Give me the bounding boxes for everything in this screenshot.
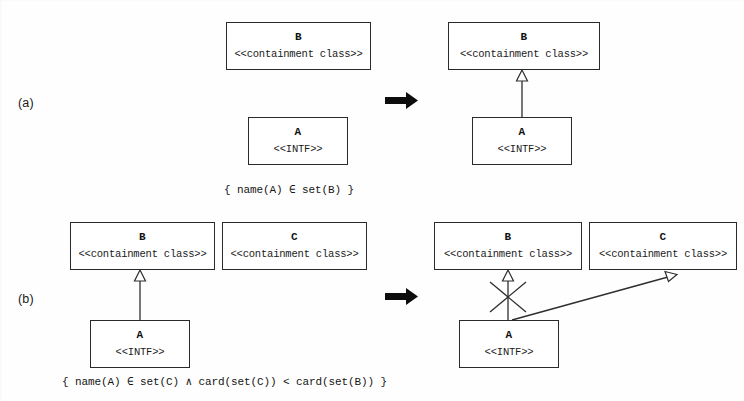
transform-arrow-a — [385, 92, 418, 109]
panel-label-a: (a) — [18, 96, 34, 110]
generalization-a-to-b-panel-b-after-crossed — [490, 270, 526, 320]
class-name: B — [139, 232, 146, 244]
class-name: B — [521, 32, 528, 44]
class-name: A — [295, 127, 302, 139]
class-name: C — [660, 232, 667, 244]
class-box-b-a-before: B <<containment class>> — [226, 22, 371, 70]
class-name: A — [519, 127, 526, 139]
class-stereotype: <<containment class>> — [599, 249, 727, 260]
constraint-text-b: { name(A) ∈ set(C) ∧ card(set(C)) < card… — [62, 375, 387, 388]
class-stereotype: <<containment class>> — [444, 249, 572, 260]
class-stereotype: <<containment class>> — [234, 49, 362, 60]
class-box-a-a-after: A <<INTF>> — [472, 117, 572, 165]
class-name: C — [291, 232, 298, 244]
class-box-b-b-before: B <<containment class>> — [70, 222, 215, 270]
class-stereotype: <<containment class>> — [460, 49, 588, 60]
generalization-a-to-c-panel-b-after — [512, 272, 677, 321]
class-stereotype: <<INTF>> — [485, 347, 534, 358]
class-name: B — [505, 232, 512, 244]
generalization-a-to-b-panel-a — [517, 70, 528, 117]
class-box-c-b-after: C <<containment class>> — [589, 222, 737, 270]
panel-label-b: (b) — [18, 292, 34, 306]
class-box-b-b-after: B <<containment class>> — [434, 222, 582, 270]
class-stereotype: <<INTF>> — [116, 347, 165, 358]
class-box-a-b-after: A <<INTF>> — [459, 320, 559, 368]
class-stereotype: <<INTF>> — [274, 144, 323, 155]
class-stereotype: <<containment class>> — [230, 249, 358, 260]
transform-arrow-b — [385, 288, 418, 305]
class-name: A — [137, 330, 144, 342]
class-name: B — [295, 32, 302, 44]
class-box-b-a-after: B <<containment class>> — [448, 22, 600, 70]
figure-canvas: (a) B <<containment class>> A <<INTF>> {… — [0, 0, 744, 401]
generalization-a-to-b-panel-b-before — [135, 270, 146, 320]
class-stereotype: <<containment class>> — [78, 249, 206, 260]
class-box-a-b-before: A <<INTF>> — [90, 320, 190, 368]
class-stereotype: <<INTF>> — [498, 144, 547, 155]
class-name: A — [506, 330, 513, 342]
class-box-a-a-before: A <<INTF>> — [248, 117, 348, 165]
class-box-c-b-before: C <<containment class>> — [222, 222, 367, 270]
constraint-text-a: { name(A) ∈ set(B) } — [224, 183, 354, 196]
